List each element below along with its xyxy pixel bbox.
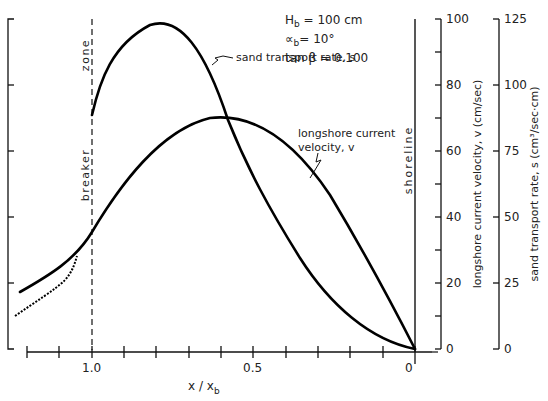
velocity-curve-label-2: velocity, v — [298, 141, 355, 154]
breaker-zone-label-top: zone — [79, 39, 92, 71]
chart-canvas: 1.0 0.5 0 x / xb zone breaker shoreline … — [0, 0, 548, 401]
v-tick-80: 80 — [446, 78, 461, 92]
v-tick-0: 0 — [446, 342, 454, 356]
dotted-sand-curve — [15, 256, 77, 316]
v-tick-100: 100 — [446, 12, 469, 26]
x-tick-0: 0 — [405, 361, 413, 375]
v-tick-40: 40 — [446, 210, 461, 224]
v-tick-20: 20 — [446, 276, 461, 290]
s-tick-100: 100 — [504, 78, 527, 92]
x-axis-label: x / xb — [188, 379, 220, 396]
x-tick-0-5: 0.5 — [243, 361, 262, 375]
x-tick-1-0: 1.0 — [82, 361, 101, 375]
sand-transport-curve — [92, 23, 415, 349]
s-tick-0: 0 — [504, 342, 512, 356]
sand-axis — [493, 19, 499, 349]
s-tick-75: 75 — [504, 144, 519, 158]
velocity-axis-label: longshore current velocity, v (cm/sec) — [471, 80, 484, 288]
parameters-box: Hb = 100 cm ∝b= 10° tan β = 0.100 — [285, 13, 368, 65]
param-wave-height: Hb = 100 cm — [285, 13, 362, 29]
param-breaker-angle: ∝b= 10° — [285, 32, 334, 48]
param-beach-slope: tan β = 0.100 — [285, 51, 368, 65]
s-tick-125: 125 — [504, 12, 527, 26]
left-axis — [8, 19, 14, 349]
breaker-zone-label-bottom: breaker — [79, 149, 92, 202]
s-tick-50: 50 — [504, 210, 519, 224]
s-tick-25: 25 — [504, 276, 519, 290]
sand-axis-label: sand transport rate, s (cm³/sec·cm) — [528, 86, 541, 281]
velocity-axis — [435, 19, 441, 349]
sand-label-pointer — [212, 56, 233, 65]
velocity-curve-label-1: longshore current — [298, 127, 396, 140]
v-tick-60: 60 — [446, 144, 461, 158]
shoreline-label: shoreline — [402, 126, 415, 194]
